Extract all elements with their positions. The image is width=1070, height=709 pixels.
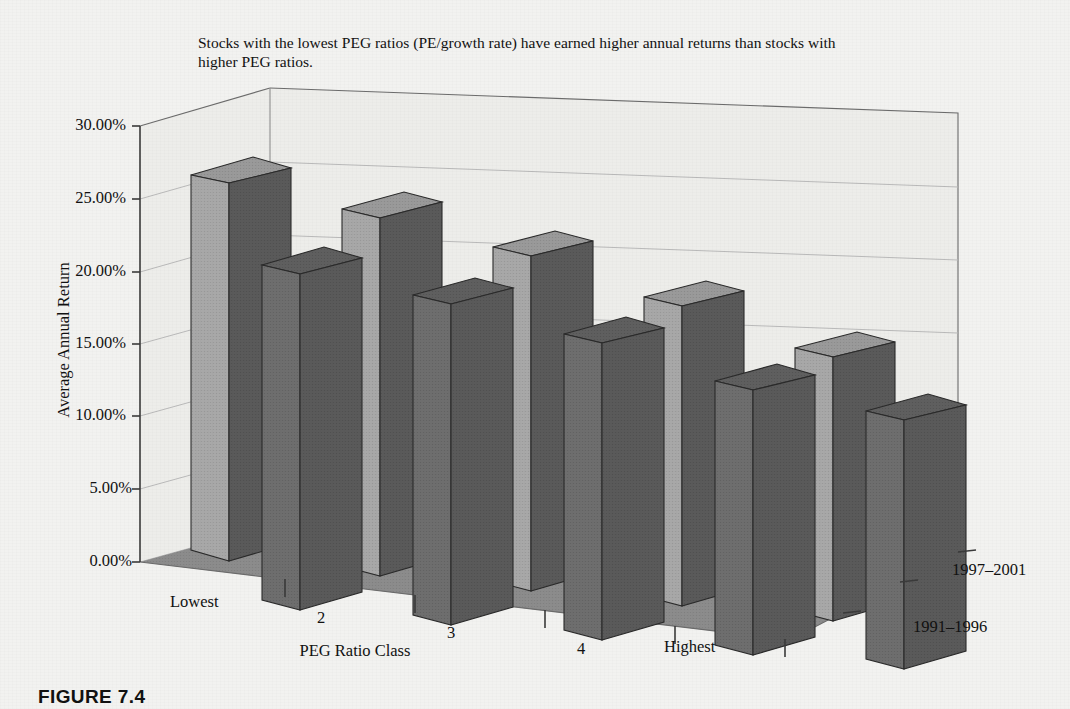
x-tick-label-lowest: Lowest (170, 592, 219, 612)
y-tick-label-30: 30.00% (16, 115, 126, 135)
x-tick-label-3: 3 (447, 623, 455, 643)
bar-1991-1996-4 (715, 364, 815, 655)
chart-canvas (0, 0, 1070, 709)
y-tick-label-0: 0.00% (22, 551, 132, 571)
x-axis-title: PEG Ratio Class (225, 641, 485, 661)
x-tick-label-4: 4 (577, 639, 585, 659)
bar-1991-1996-lowest (262, 247, 362, 610)
bar-1991-1996-2 (413, 278, 513, 625)
figure-page: Stocks with the lowest PEG ratios (PE/gr… (0, 0, 1070, 709)
y-axis (132, 126, 140, 562)
x-tick-label-highest: Highest (664, 637, 715, 657)
bar-1991-1996-3 (564, 317, 664, 640)
y-tick-label-25: 25.00% (16, 188, 126, 208)
y-tick-label-5: 5.00% (22, 478, 132, 498)
figure-number: FIGURE 7.4 (38, 686, 145, 708)
y-axis-title: Average Annual Return (54, 230, 74, 450)
series-label-1991-1996: 1991–1996 (913, 617, 987, 637)
series-label-1997-2001: 1997–2001 (952, 560, 1026, 580)
x-tick-label-2: 2 (317, 608, 325, 628)
